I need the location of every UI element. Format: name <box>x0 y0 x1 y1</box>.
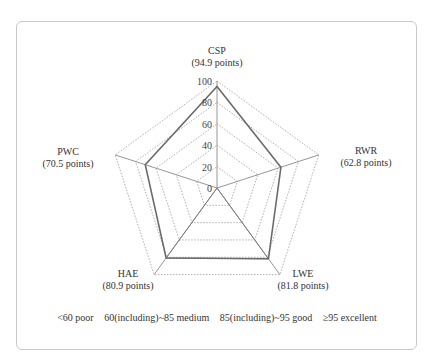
axis-score: (94.9 points) <box>187 57 247 69</box>
axis-name: CSP <box>187 45 247 57</box>
legend-excellent: ≥95 excellent <box>323 312 377 323</box>
legend-poor: <60 poor <box>57 312 93 323</box>
axis-score: (81.8 points) <box>265 280 341 292</box>
axis-score: (62.8 points) <box>328 157 404 169</box>
tick-label: 20 <box>202 162 212 173</box>
axis-score: (70.5 points) <box>30 158 106 170</box>
tick-label: 80 <box>202 97 212 108</box>
axis-label-lwe: LWE (81.8 points) <box>265 268 341 292</box>
inner-wedge <box>166 188 268 259</box>
data-polygon <box>145 86 281 258</box>
axis-name: HAE <box>90 268 166 280</box>
tick-label: 100 <box>197 76 212 87</box>
axis-label-pwc: PWC (70.5 points) <box>30 146 106 170</box>
axis-name: LWE <box>265 268 341 280</box>
axis-score: (80.9 points) <box>90 280 166 292</box>
axis-label-hae: HAE (80.9 points) <box>90 268 166 292</box>
axis-name: RWR <box>328 145 404 157</box>
tick-label: 40 <box>202 140 212 151</box>
radar-axes <box>115 81 319 275</box>
tick-label: 0 <box>207 183 212 194</box>
axis-label-csp: CSP (94.9 points) <box>187 45 247 69</box>
legend-good: 85(including)~95 good <box>220 312 312 323</box>
radar-inner-wedges <box>166 188 268 259</box>
axis-name: PWC <box>30 146 106 158</box>
legend-medium: 60(including)~85 medium <box>104 312 209 323</box>
axis-label-rwr: RWR (62.8 points) <box>328 145 404 169</box>
axis-spoke <box>217 155 319 188</box>
grade-legend: <60 poor 60(including)~85 medium 85(incl… <box>0 312 434 323</box>
tick-label: 60 <box>202 119 212 130</box>
